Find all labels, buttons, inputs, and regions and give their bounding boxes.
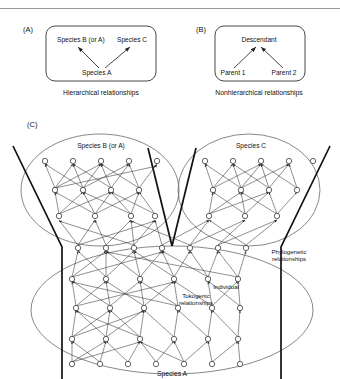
nodes-species-b-row3: [56, 213, 157, 218]
panel-c-label-phylogenetic-line2: relationships: [272, 255, 306, 262]
panel-c-label-species-a: Species A: [157, 370, 188, 378]
cluster-ellipse-species-b: [21, 134, 179, 246]
panel-a-edge-a-to-c: [105, 47, 130, 68]
boundary-v-left: [148, 148, 172, 246]
nodes-species-c-row2: [210, 187, 299, 192]
nodes-species-c-row3: [206, 213, 279, 218]
panel-c-label-species-b: Species B (or A): [77, 142, 125, 150]
boundary-left-outer: [13, 146, 62, 379]
panel-a-node-species-b: Species B (or A): [57, 36, 105, 44]
panel-c: (C): [13, 120, 330, 379]
panel-c-label-tokogenic-line1: Tokogenic: [182, 292, 209, 299]
panel-a: (A) Species B (or A) Species C Species A…: [23, 25, 156, 97]
panel-c-tag: (C): [27, 120, 38, 129]
nodes-species-a-row4: [69, 336, 240, 341]
panel-b-caption: Nonhierarchical relationships: [215, 89, 303, 97]
panel-b-node-parent-1: Parent 1: [221, 69, 246, 76]
figure-root: (A) Species B (or A) Species C Species A…: [0, 0, 340, 379]
cluster-ellipse-species-a: [31, 246, 313, 374]
boundary-v-right: [172, 148, 196, 246]
panel-c-label-species-c: Species C: [236, 142, 266, 150]
nodes-species-a-row2: [69, 276, 240, 281]
figure-svg: (A) Species B (or A) Species C Species A…: [0, 0, 340, 379]
nodes-species-c-row1: [202, 158, 315, 163]
panel-c-label-phylogenetic-line1: Phylogenetic: [272, 248, 307, 255]
panel-b-edge-p1-to-d: [234, 47, 256, 68]
panel-b: (B) Descendant Parent 1 Parent 2 Nonhier…: [196, 25, 305, 97]
panel-b-node-descendant: Descendant: [241, 36, 276, 43]
network-species-b: [42, 158, 159, 218]
nodes-species-b-row1: [42, 158, 159, 163]
panel-c-label-individual: Individual: [213, 283, 239, 290]
boundary-right-outer: [281, 146, 330, 379]
panel-b-node-parent-2: Parent 2: [272, 69, 297, 76]
panel-a-caption: Hierarchical relationships: [63, 89, 140, 97]
panel-a-node-species-c: Species C: [117, 36, 147, 44]
panel-b-tag: (B): [196, 25, 207, 34]
panel-a-node-species-a: Species A: [82, 69, 112, 77]
panel-a-tag: (A): [23, 25, 34, 34]
panel-c-label-tokogenic-line2: relationships: [179, 299, 213, 306]
network-species-a: [69, 245, 248, 366]
panel-a-edge-a-to-b: [78, 47, 99, 68]
panel-b-edge-p2-to-d: [261, 47, 283, 68]
nodes-species-a-row3: [73, 305, 242, 310]
nodes-species-b-row2: [52, 187, 141, 192]
